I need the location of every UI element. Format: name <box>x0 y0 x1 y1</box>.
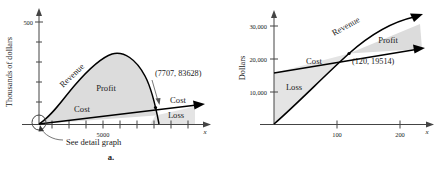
breakeven-point-b <box>347 52 350 55</box>
x-axis-name-b: x <box>424 128 429 136</box>
caption-a-letter: a. <box>108 152 114 162</box>
y-tick-label-b-20000: 20,000 <box>249 56 267 63</box>
y-axis-name-b: Dollars <box>238 56 247 81</box>
breakeven-point-a <box>154 106 157 109</box>
y-axis-name-a: Thousands of dollars <box>5 37 14 107</box>
x-tick-label-b-100: 100 <box>332 131 342 138</box>
x-axis-arrow-b <box>426 122 434 128</box>
point-leader-arrow-a <box>156 98 161 105</box>
x-axis-name-a: x <box>202 128 207 136</box>
figure-container: 500 5000 <box>0 0 445 176</box>
line-cost-arrow-a <box>193 101 205 110</box>
x-axis-arrow-a <box>203 122 211 128</box>
chart-a-svg: 500 5000 <box>0 0 222 150</box>
curve-label-cost-b: Cost <box>306 56 322 66</box>
y-tick-label-b-10000: 10,000 <box>249 89 267 96</box>
detail-leader-a <box>41 129 63 141</box>
region-label-profit-b: Profit <box>378 35 398 45</box>
line-cost-b <box>274 50 416 74</box>
x-tick-label-b-200: 200 <box>395 131 405 138</box>
annotation-see-detail-graph: See detail graph <box>66 137 122 147</box>
point-label-a: (7707, 83628) <box>155 69 202 78</box>
y-axis-arrow-b <box>271 10 277 18</box>
panel-a: 500 5000 <box>0 0 222 176</box>
region-label-loss-a: Loss <box>168 110 185 120</box>
y-tick-label-b-30000: 30,000 <box>249 23 267 30</box>
region-label-loss-b: Loss <box>286 82 303 92</box>
point-label-b: (120, 19514) <box>352 57 395 66</box>
panel-b: 30,000 20,000 10,000 100 200 Revenue Pro… <box>222 0 445 176</box>
curve-label-revenue-b: Revenue <box>330 14 361 37</box>
y-axis-arrow-a <box>36 8 42 16</box>
region-label-profit-a: Profit <box>96 83 116 93</box>
curve-label-cost-a: Cost <box>74 104 90 114</box>
chart-b-svg: 30,000 20,000 10,000 100 200 Revenue Pro… <box>222 0 445 150</box>
caption-a: a. <box>0 152 222 162</box>
curve-label-cost-right-a: Cost <box>170 95 186 105</box>
y-tick-label-a-500: 500 <box>23 19 33 26</box>
